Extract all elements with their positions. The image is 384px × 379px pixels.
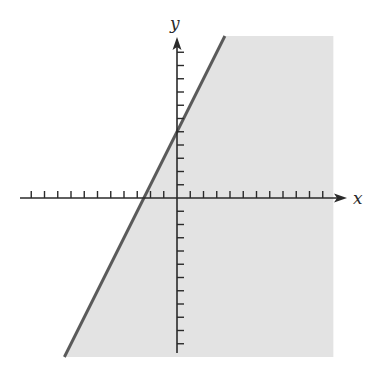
x-axis-label: x: [353, 188, 363, 208]
inequality-graph: x y: [0, 0, 384, 379]
shaded-region: [64, 36, 333, 357]
y-axis-label: y: [169, 13, 180, 33]
